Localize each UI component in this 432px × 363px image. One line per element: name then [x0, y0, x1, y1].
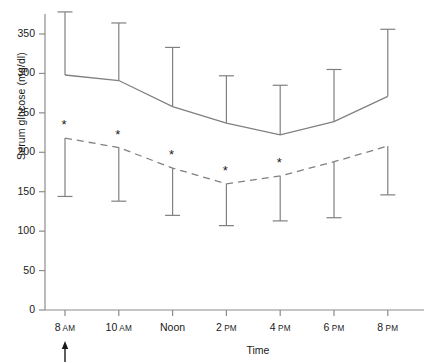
y-tick-label: 0	[1, 303, 35, 315]
x-tick-label: 8 PM	[353, 321, 423, 333]
y-tick-label: 200	[1, 145, 35, 157]
significance-asterisk: *	[115, 127, 120, 142]
y-tick-label: 100	[1, 224, 35, 236]
significance-asterisk: *	[169, 147, 174, 162]
y-tick-label: 350	[1, 27, 35, 39]
significance-asterisk: *	[277, 155, 282, 170]
significance-asterisk: *	[61, 117, 66, 132]
y-tick-label: 50	[1, 264, 35, 276]
significance-asterisk: *	[223, 163, 228, 178]
serum-glucose-chart: Serum glucose (mg/dl) Time ***** 0501001…	[0, 0, 432, 363]
arrow-head	[62, 341, 68, 349]
y-tick-label: 300	[1, 66, 35, 78]
y-tick-label: 250	[1, 106, 35, 118]
y-tick-label: 150	[1, 185, 35, 197]
plot-canvas: *****	[0, 0, 432, 363]
